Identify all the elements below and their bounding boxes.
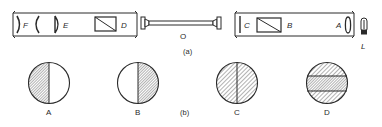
lamp-icon xyxy=(361,18,367,34)
label-a: A xyxy=(335,21,341,30)
field-a xyxy=(28,62,70,104)
polarimeter-figure: F E D O (a) C B A L A xyxy=(0,0,382,127)
lens-e-icon xyxy=(55,16,58,33)
field-b xyxy=(118,62,160,104)
label-e: E xyxy=(63,21,69,30)
field-label-b: B xyxy=(135,108,140,117)
label-l: L xyxy=(361,42,365,51)
field-label-c: C xyxy=(234,108,240,117)
caption-b: (b) xyxy=(180,108,190,117)
lens-a-icon xyxy=(345,17,350,33)
caption-a: (a) xyxy=(183,47,193,56)
field-label-d: D xyxy=(324,108,330,117)
label-o: O xyxy=(180,32,186,41)
sample-tube xyxy=(141,17,221,29)
analyser-tube xyxy=(13,11,137,38)
label-b: B xyxy=(287,21,293,30)
label-d: D xyxy=(121,21,127,30)
field-label-a: A xyxy=(46,108,52,117)
field-c xyxy=(216,62,258,104)
lens-f2-icon xyxy=(36,16,39,33)
label-f: F xyxy=(23,21,29,30)
lens-f-icon xyxy=(17,16,20,33)
label-c: C xyxy=(244,21,250,30)
field-d xyxy=(306,62,348,104)
